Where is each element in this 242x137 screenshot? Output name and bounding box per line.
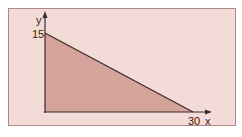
y-tick-label: 15 <box>32 28 44 40</box>
x-axis-arrow-icon <box>205 110 212 115</box>
x-axis-label: x <box>205 115 211 127</box>
x-tick-label: 30 <box>188 115 200 127</box>
triangle-chart: y 15 30 x <box>0 0 242 137</box>
y-axis-label: y <box>36 14 42 26</box>
y-axis-arrow-icon <box>43 11 48 18</box>
